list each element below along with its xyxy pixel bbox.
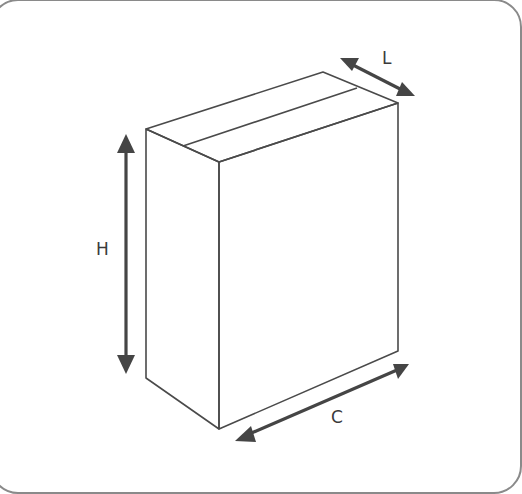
width-arrowhead-start: [235, 426, 256, 442]
height-dimension-arrow: [117, 134, 135, 374]
width-dimension-arrow: [235, 364, 409, 442]
height-label: H: [96, 239, 109, 259]
width-label: C: [331, 407, 343, 427]
length-arrowhead-start: [340, 58, 359, 71]
box: [146, 72, 398, 429]
tape-line: [183, 88, 357, 146]
box-side-face: [146, 129, 219, 429]
length-label: L: [382, 48, 392, 68]
height-arrowhead-top: [117, 134, 135, 153]
width-arrow-shaft: [247, 370, 397, 435]
height-arrowhead-bottom: [117, 355, 135, 374]
